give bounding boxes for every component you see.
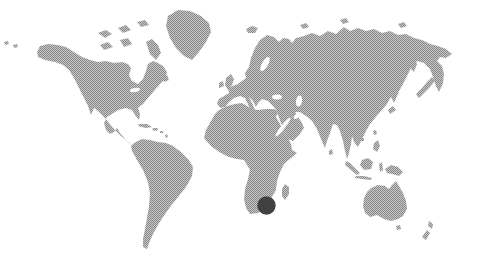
- south-america: [131, 139, 193, 249]
- lesser-antilles: [165, 134, 168, 138]
- location-marker[interactable]: [257, 196, 275, 214]
- puerto-rico: [160, 131, 163, 133]
- screenshot-canvas: [0, 0, 485, 256]
- sulawesi: [379, 162, 383, 172]
- madagascar: [282, 184, 289, 200]
- arctic-island-1: [98, 30, 112, 38]
- world-map-svg: [0, 0, 485, 256]
- world-map-figure: [0, 0, 485, 256]
- black-sea: [272, 95, 282, 100]
- hainan: [360, 138, 364, 141]
- russian-arctic-island-1: [300, 23, 309, 29]
- arctic-island-4: [100, 42, 113, 50]
- new-zealand-south: [422, 230, 430, 240]
- greenland: [166, 10, 211, 60]
- philippines: [373, 140, 380, 152]
- new-zealand-north: [428, 221, 433, 229]
- iceland: [246, 26, 258, 33]
- tasmania: [396, 225, 401, 230]
- landmasses-layer: [4, 10, 452, 249]
- japan-north: [416, 77, 435, 98]
- borneo: [360, 158, 373, 170]
- russian-arctic-island-3: [398, 22, 407, 28]
- north-america: [37, 44, 167, 151]
- java: [355, 176, 372, 180]
- cuba: [138, 124, 152, 128]
- arctic-island-5: [120, 38, 132, 47]
- hispaniola: [152, 128, 158, 131]
- baffin-island: [146, 39, 161, 60]
- arctic-island-3: [137, 20, 149, 27]
- aleutian-island-1: [4, 41, 9, 45]
- taiwan: [373, 130, 377, 135]
- new-guinea: [385, 165, 403, 176]
- arctic-island-2: [118, 25, 131, 33]
- australia: [363, 181, 407, 221]
- sumatra: [345, 161, 360, 175]
- russian-arctic-island-2: [340, 18, 349, 24]
- ireland: [219, 81, 224, 88]
- japan-south: [388, 106, 396, 114]
- aleutian-island-2: [13, 44, 18, 48]
- sri-lanka: [329, 149, 333, 155]
